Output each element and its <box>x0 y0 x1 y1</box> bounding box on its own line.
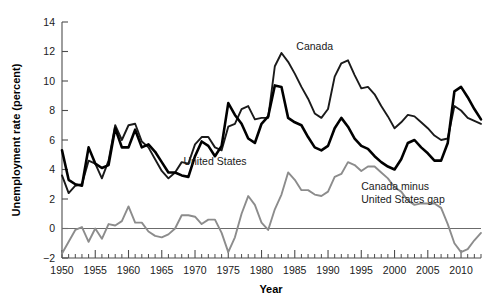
chart-container: 14121086420−2 19501955196019651970197519… <box>0 0 497 304</box>
x-tick-label: 1980 <box>250 264 274 276</box>
y-tick-label: −2 <box>43 252 55 264</box>
x-tick-label: 1970 <box>183 264 207 276</box>
series-label-gap-line2: United States gap <box>361 193 445 205</box>
series-label-gap-line1: Canada minus <box>361 180 429 192</box>
x-tick-label: 1975 <box>217 264 241 276</box>
x-tick-label: 1965 <box>150 264 174 276</box>
y-tick-label: 14 <box>43 16 55 28</box>
x-tick-label: 2005 <box>416 264 440 276</box>
series-label-united-states: United States <box>183 155 246 167</box>
x-tick-label: 1990 <box>316 264 340 276</box>
y-tick-label: 0 <box>49 222 55 234</box>
x-tick-label: 1985 <box>283 264 307 276</box>
unemployment-rate-line-chart: 14121086420−2 19501955196019651970197519… <box>0 0 497 304</box>
series-label-canada: Canada <box>296 40 333 52</box>
y-tick-label: 2 <box>49 193 55 205</box>
y-axis-title: Unemployment rate (percent) <box>10 63 22 216</box>
y-tick-label: 8 <box>49 104 55 116</box>
x-tick-label: 1950 <box>50 264 74 276</box>
y-tick-label: 10 <box>43 75 55 87</box>
x-axis-title: Year <box>259 283 283 295</box>
x-tick-label: 2010 <box>449 264 473 276</box>
x-tick-label: 1955 <box>84 264 108 276</box>
y-tick-label: 4 <box>49 163 55 175</box>
x-tick-label: 1995 <box>350 264 374 276</box>
y-tick-label: 6 <box>49 134 55 146</box>
y-tick-label: 12 <box>43 45 55 57</box>
x-tick-label: 1960 <box>117 264 141 276</box>
x-tick-label: 2000 <box>383 264 407 276</box>
